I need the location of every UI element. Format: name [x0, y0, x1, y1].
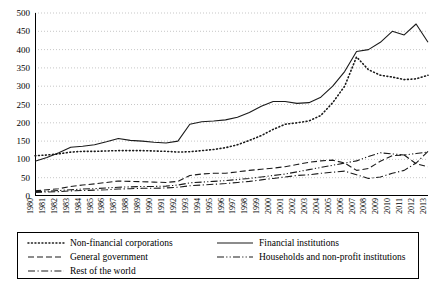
series-line — [35, 152, 428, 192]
x-axis-tick-label: 1994 — [194, 198, 202, 214]
legend-line-swatch-icon — [27, 252, 65, 262]
plot-area — [35, 13, 428, 196]
legend-item-label: Households and non-profit institutions — [259, 252, 405, 262]
x-axis-tick-label: 2001 — [277, 198, 285, 214]
legend-line-swatch-icon — [216, 252, 254, 262]
legend-item[interactable]: Households and non-profit institutions — [216, 250, 416, 264]
legend-item[interactable]: Rest of the world — [27, 264, 217, 278]
legend-column-right: Financial institutionsHouseholds and non… — [216, 236, 416, 264]
legend-line-swatch-icon — [27, 266, 65, 276]
x-axis-tick-label: 2007 — [349, 198, 357, 214]
y-axis-tick-label: 500 — [17, 9, 31, 18]
x-axis-tick-label: 1982 — [51, 198, 59, 214]
x-axis-tick-label: 2003 — [301, 198, 309, 214]
legend-item-label: Financial institutions — [259, 238, 339, 248]
y-axis-labels: 050100150200250300350400450500 — [0, 0, 33, 196]
x-axis-tick-label: 2008 — [360, 198, 368, 214]
x-axis-tick-label: 2005 — [325, 198, 333, 214]
x-axis-tick-label: 1993 — [182, 198, 190, 214]
x-axis-tick-label: 1995 — [206, 198, 214, 214]
x-axis-tick-label: 1980 — [27, 198, 35, 214]
y-axis-tick-label: 400 — [17, 45, 31, 54]
legend-item-label: General government — [70, 252, 148, 262]
series-line — [35, 155, 428, 191]
series-line — [35, 151, 428, 192]
legend-line-swatch-icon — [216, 238, 254, 248]
x-axis-tick-label: 1998 — [241, 198, 249, 214]
x-axis-tick-label: 1992 — [170, 198, 178, 214]
x-axis-tick-label: 1990 — [146, 198, 154, 214]
x-axis-tick-label: 1981 — [39, 198, 47, 214]
legend-item[interactable]: General government — [27, 250, 217, 264]
x-axis-tick-label: 2009 — [372, 198, 380, 214]
y-axis-tick-label: 100 — [17, 155, 31, 164]
series-line — [35, 57, 428, 156]
chart-container: 050100150200250300350400450500 198019811… — [0, 0, 436, 288]
x-axis-tick-label: 1986 — [98, 198, 106, 214]
x-axis-tick-label: 2012 — [408, 198, 416, 214]
x-axis-tick-label: 1999 — [253, 198, 261, 214]
x-axis-tick-label: 2010 — [384, 198, 392, 214]
series-line — [35, 24, 428, 161]
x-axis-tick-label: 2002 — [289, 198, 297, 214]
legend-line-swatch-icon — [27, 238, 65, 248]
x-axis-tick-label: 1996 — [218, 198, 226, 214]
x-axis-tick-label: 1985 — [87, 198, 95, 214]
chart-legend: Non-financial corporationsGeneral govern… — [17, 232, 419, 279]
legend-item-label: Non-financial corporations — [70, 238, 173, 248]
legend-item[interactable]: Financial institutions — [216, 236, 416, 250]
x-axis-tick-label: 1983 — [63, 198, 71, 214]
x-axis-labels: 1980198119821983198419851986198719881989… — [35, 198, 428, 230]
x-axis-tick-label: 1997 — [229, 198, 237, 214]
y-axis-tick-label: 350 — [17, 63, 31, 72]
y-axis-tick-label: 200 — [17, 118, 31, 127]
legend-item[interactable]: Non-financial corporations — [27, 236, 217, 250]
legend-column-left: Non-financial corporationsGeneral govern… — [27, 236, 217, 278]
series-lines — [35, 13, 428, 196]
y-axis-tick-label: 450 — [17, 27, 31, 36]
x-axis-tick-label: 2011 — [396, 198, 404, 214]
x-axis-tick-label: 2006 — [337, 198, 345, 214]
x-axis-tick-label: 2004 — [313, 198, 321, 214]
x-axis-tick-label: 1991 — [158, 198, 166, 214]
x-axis-tick-label: 2000 — [265, 198, 273, 214]
y-axis-tick-label: 50 — [21, 173, 30, 182]
legend-item-label: Rest of the world — [70, 266, 136, 276]
x-axis-tick-label: 2013 — [420, 198, 428, 214]
x-axis-tick-label: 1987 — [110, 198, 118, 214]
y-axis-tick-label: 150 — [17, 137, 31, 146]
x-axis-tick-label: 1984 — [75, 198, 83, 214]
x-axis-tick-label: 1989 — [134, 198, 142, 214]
y-axis-tick-label: 300 — [17, 82, 31, 91]
y-axis-tick-label: 250 — [17, 100, 31, 109]
x-axis-tick-label: 1988 — [122, 198, 130, 214]
